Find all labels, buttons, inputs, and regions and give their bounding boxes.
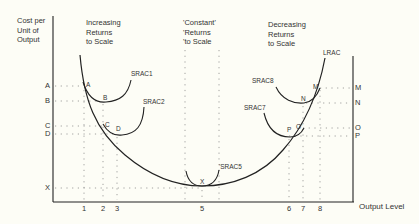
label-srac7: SRAC7 xyxy=(244,103,266,112)
point-d: D xyxy=(116,124,121,133)
y-level-a: A xyxy=(45,81,50,90)
y-level-m: M xyxy=(355,83,361,92)
x-tick-7: 7 xyxy=(301,204,305,213)
x-axis-title: Output Level xyxy=(359,202,404,211)
y-axis-title: Cost per Unit of Output xyxy=(17,16,45,45)
label-srac5: 'SRAC5 xyxy=(219,162,242,171)
label-srac8: SRAC8 xyxy=(252,76,274,85)
point-c: C xyxy=(105,120,110,129)
y-level-x: X xyxy=(45,183,50,192)
y-level-n: N xyxy=(355,98,360,107)
y-level-p: P xyxy=(355,131,360,140)
x-tick-5: 5 xyxy=(200,204,204,213)
label-srac2: SRAC2 xyxy=(143,97,165,106)
x-tick-3: 3 xyxy=(115,204,119,213)
region-increasing-returns: Increasing Returns to Scale xyxy=(86,18,121,47)
x-tick-1: 1 xyxy=(82,204,86,213)
x-tick-8: 8 xyxy=(318,204,322,213)
x-tick-6: 6 xyxy=(287,204,291,213)
point-m: M xyxy=(313,82,318,91)
region-decreasing-returns: Decreasing Returns to Scale xyxy=(268,20,306,49)
point-o: O' xyxy=(296,122,302,131)
y-level-d: D xyxy=(45,129,50,138)
label-lrac: LRAC xyxy=(323,48,340,57)
point-p: P xyxy=(287,125,291,134)
label-srac1: SRAC1 xyxy=(131,69,153,78)
region-constant-returns: 'Constant' 'Returns 'to Scale xyxy=(183,18,216,47)
point-x: X xyxy=(200,177,204,186)
x-tick-2: 2 xyxy=(101,204,105,213)
point-n: N xyxy=(301,94,306,103)
y-level-b: B xyxy=(45,96,50,105)
point-a: A xyxy=(86,80,90,89)
point-b: B xyxy=(103,93,107,102)
